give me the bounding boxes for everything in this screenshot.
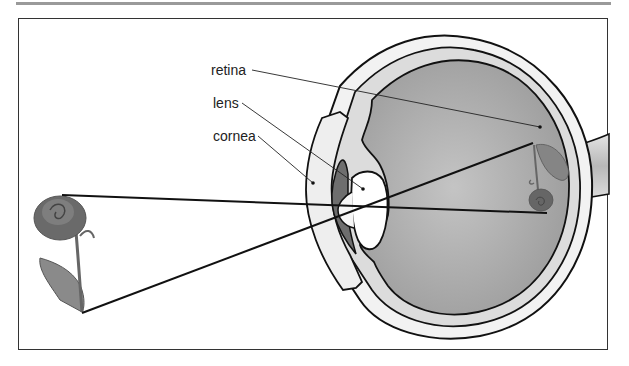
eye-diagram	[0, 0, 629, 366]
object-rose	[34, 196, 94, 312]
lens-label: lens	[213, 96, 239, 110]
cornea-leader	[258, 136, 313, 183]
retina-label: retina	[211, 63, 246, 77]
cornea-label: cornea	[213, 129, 256, 143]
